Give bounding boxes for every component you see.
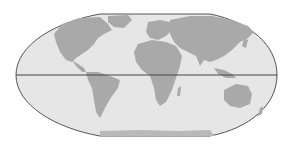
world-map — [0, 0, 304, 145]
antarctica — [100, 130, 214, 136]
world-map-svg — [0, 0, 304, 145]
